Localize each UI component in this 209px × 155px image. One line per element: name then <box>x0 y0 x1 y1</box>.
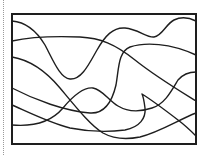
drawing-frame <box>12 14 196 144</box>
line-drawing <box>0 0 209 155</box>
